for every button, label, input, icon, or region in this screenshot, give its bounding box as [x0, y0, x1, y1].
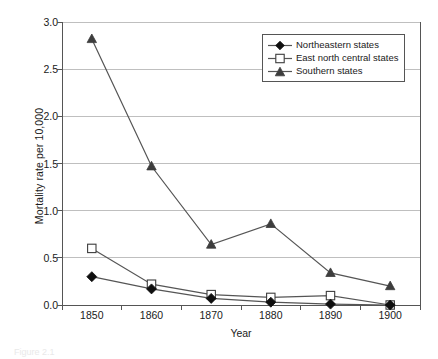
x-tick-label: 1900 [367, 309, 413, 321]
legend-item-southern-states: Southern states [267, 64, 398, 77]
legend-item-northeastern-states: Northeastern states [267, 38, 398, 51]
legend-label: Northeastern states [293, 38, 379, 51]
x-axis-tick-labels: 1850 1860 1870 1880 1890 1900 [62, 309, 420, 325]
y-tick-marks [57, 22, 62, 305]
x-tick-label: 1850 [69, 309, 115, 321]
x-axis-title: Year [62, 327, 420, 339]
caption-fragment: Figure 2.1 [14, 347, 55, 357]
legend-item-east-north-central-states: East north central states [267, 51, 398, 64]
open-square-marker-icon [267, 51, 293, 64]
filled-diamond-marker-icon [267, 38, 293, 51]
line-chart: Mortality rate per 10,000 3.0 2.5 2.0 1.… [0, 0, 438, 359]
x-tick-label: 1860 [129, 309, 175, 321]
x-tick-label: 1870 [188, 309, 234, 321]
legend-label: East north central states [293, 51, 398, 64]
x-tick-label: 1890 [308, 309, 354, 321]
legend: Northeastern states East north central s… [262, 34, 405, 82]
filled-triangle-marker-icon [267, 64, 293, 77]
legend-label: Southern states [293, 64, 363, 77]
x-tick-label: 1880 [248, 309, 294, 321]
